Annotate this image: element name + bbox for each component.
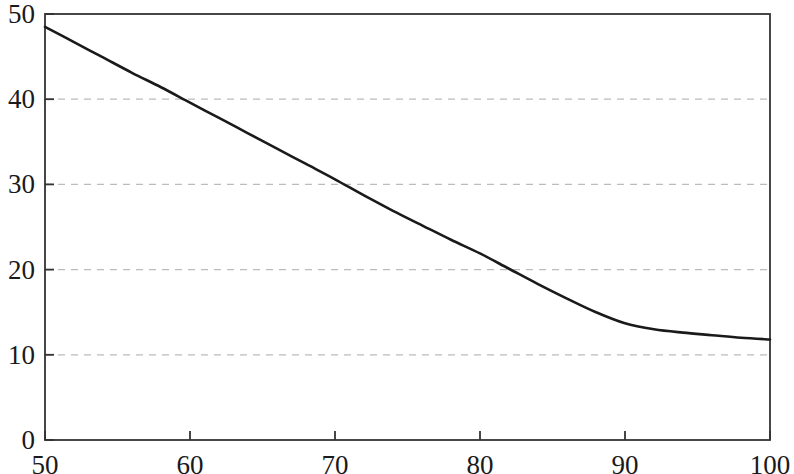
x-tick-label-70: 70 [295, 452, 375, 474]
gridlines [45, 99, 770, 355]
y-tick-label-20: 20 [8, 257, 35, 284]
x-tick-label-50: 50 [5, 452, 85, 474]
x-tick-label-80: 80 [440, 452, 520, 474]
series-line-curve [45, 27, 770, 340]
y-tick-label-10: 10 [8, 342, 35, 369]
y-tick-label-50: 50 [8, 1, 35, 28]
axis-ticks [45, 14, 770, 440]
x-tick-label-90: 90 [585, 452, 665, 474]
y-tick-label-30: 30 [8, 171, 35, 198]
x-tick-label-60: 60 [150, 452, 230, 474]
plot-frame [45, 14, 770, 440]
x-tick-label-100: 100 [730, 452, 794, 474]
plot-border [45, 14, 770, 440]
data-series-line [45, 27, 770, 340]
y-tick-label-40: 40 [8, 86, 35, 113]
